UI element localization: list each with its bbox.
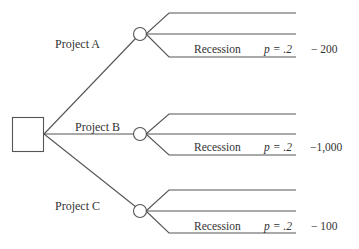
chance-node-b <box>134 128 147 141</box>
outcome-b-probability: p = .2 <box>264 142 292 154</box>
outcome-a-probability: p = .2 <box>264 44 292 56</box>
outcome-a-payoff: − 200 <box>311 44 338 56</box>
chance-node-c <box>134 205 147 218</box>
outcome-c-probability: p = .2 <box>264 221 292 233</box>
outcome-a-label: Recession <box>194 44 241 56</box>
project-b-label: Project B <box>75 121 120 133</box>
project-c-label: Project C <box>55 200 100 212</box>
tree-lines <box>0 0 359 249</box>
decision-tree-diagram: Project A Project B Project C Recession … <box>0 0 359 249</box>
outcome-b-payoff: −1,000 <box>310 142 342 154</box>
outcome-c-payoff: − 100 <box>311 221 338 233</box>
outcome-b-label: Recession <box>194 142 241 154</box>
decision-node-square <box>13 118 44 152</box>
project-a-label: Project A <box>55 38 100 50</box>
branch-project-c <box>44 134 136 207</box>
chance-node-a <box>134 28 147 41</box>
outcome-c-label: Recession <box>194 221 241 233</box>
